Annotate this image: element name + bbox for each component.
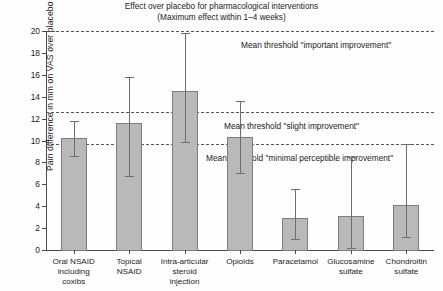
x-tick-label-line: sulfate	[323, 267, 378, 277]
error-bar-cap-lower	[347, 248, 356, 249]
chart-figure: Effect over placebo for pharmacological …	[0, 0, 443, 291]
y-tick-label: 14	[31, 92, 40, 102]
error-bar-cap-lower	[291, 239, 300, 240]
chart-title-block: Effect over placebo for pharmacological …	[0, 2, 443, 23]
error-bar-cap-upper	[125, 77, 134, 78]
plot-area: 02468101214161820 Pain difference in mm …	[46, 31, 434, 250]
x-tick-label: Chondroitinsulfate	[379, 257, 434, 277]
x-tick-label: Oral NSAIDincludingcoxibs	[46, 257, 101, 288]
x-tick-label: Intra-articularsteroidinjection	[157, 257, 212, 288]
error-bar-cap-upper	[70, 121, 79, 122]
x-tick-label-line: steroid	[157, 267, 212, 277]
y-tick-label: 0	[35, 245, 40, 255]
threshold-label: Mean threshold "slight improvement"	[224, 121, 359, 131]
x-tick	[295, 250, 296, 254]
error-bar-cap-upper	[402, 144, 411, 145]
error-bar-line	[406, 144, 407, 237]
y-tick-label: 10	[31, 136, 40, 146]
error-bar-line	[351, 157, 352, 248]
y-tick-label: 20	[31, 26, 40, 36]
x-tick-label-line: NSAID	[101, 267, 156, 277]
threshold-line	[46, 31, 434, 32]
error-bar-cap-upper	[181, 33, 190, 34]
y-tick	[42, 206, 46, 207]
x-tick-label: TopicalNSAID	[101, 257, 156, 277]
x-tick-label: Opioids	[212, 257, 267, 267]
y-tick-label: 18	[31, 48, 40, 58]
error-bar-cap-lower	[181, 142, 190, 143]
error-bar-line	[240, 101, 241, 173]
error-bar-cap-upper	[236, 101, 245, 102]
error-bar-cap-upper	[291, 189, 300, 190]
error-bar-cap-lower	[70, 156, 79, 157]
x-tick-label-line: Topical	[101, 257, 156, 267]
error-bar-cap-lower	[236, 173, 245, 174]
x-tick-label-line: Chondroitin	[379, 257, 434, 267]
y-tick	[42, 184, 46, 185]
chart-subtitle: (Maximum effect within 1–4 weeks)	[0, 13, 443, 24]
y-tick-label: 6	[35, 179, 40, 189]
error-bar-line	[74, 121, 75, 156]
x-tick-label-line: including	[46, 267, 101, 277]
error-bar-line	[129, 77, 130, 176]
x-tick-label-line: Opioids	[212, 257, 267, 267]
y-tick-label: 12	[31, 114, 40, 124]
x-tick-label: Glucosaminesulfate	[323, 257, 378, 277]
x-tick-label-line: injection	[157, 277, 212, 287]
x-tick-label-line: coxibs	[46, 277, 101, 287]
x-tick	[129, 250, 130, 254]
x-tick-label-line: Oral NSAID	[46, 257, 101, 267]
error-bar-cap-lower	[402, 237, 411, 238]
threshold-label: Mean threshold "important improvement"	[241, 40, 391, 50]
x-tick	[351, 250, 352, 254]
error-bar-cap-upper	[347, 157, 356, 158]
x-tick	[406, 250, 407, 254]
chart-title: Effect over placebo for pharmacological …	[0, 2, 443, 13]
y-axis-title: Pain difference in mm on VAS over placeb…	[45, 1, 55, 171]
error-bar-line	[295, 189, 296, 239]
x-tick-label: Paracetamol	[268, 257, 323, 267]
x-tick	[74, 250, 75, 254]
y-tick	[42, 250, 46, 251]
x-tick-label-line: sulfate	[379, 267, 434, 277]
y-tick-label: 4	[35, 201, 40, 211]
y-tick	[42, 228, 46, 229]
y-tick-label: 8	[35, 157, 40, 167]
x-tick-label-line: Intra-articular	[157, 257, 212, 267]
error-bar-cap-lower	[125, 176, 134, 177]
y-tick-label: 2	[35, 223, 40, 233]
x-tick	[240, 250, 241, 254]
error-bar-line	[185, 33, 186, 141]
x-tick	[185, 250, 186, 254]
x-tick-label-line: Paracetamol	[268, 257, 323, 267]
y-tick-label: 16	[31, 70, 40, 80]
x-tick-label-line: Glucosamine	[323, 257, 378, 267]
